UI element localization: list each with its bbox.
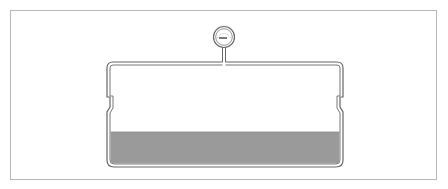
- liquid: [111, 132, 340, 163]
- vessel: [107, 62, 343, 167]
- pressure-gauge-icon: [214, 27, 235, 63]
- vapor-pressure-diagram: [0, 0, 448, 189]
